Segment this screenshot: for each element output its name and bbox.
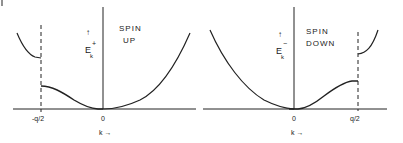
- right-y-label-sup: −: [283, 40, 287, 47]
- right-title-spin: SPIN: [306, 27, 329, 36]
- left-title-up: UP: [123, 36, 136, 45]
- left-y-label-sub: k: [90, 53, 94, 59]
- right-parabola-curve: [210, 30, 294, 109]
- dispersion-diagram: SPIN UP ↑ E + k -q/2 0 k → SPIN DOWN ↑ E…: [0, 0, 403, 143]
- left-x-label-k-arrow: k →: [99, 129, 111, 136]
- right-title-down: DOWN: [306, 39, 335, 48]
- left-panel-spin-up: SPIN UP ↑ E + k -q/2 0 k →: [13, 7, 196, 136]
- right-upper-band-curve: [358, 30, 378, 54]
- left-tick-origin: 0: [101, 115, 105, 122]
- left-y-arrow-icon: ↑: [86, 28, 90, 37]
- right-lower-band-curve: [289, 81, 358, 109]
- left-lower-band-curve: [41, 86, 103, 109]
- right-x-label-k-arrow: k →: [291, 129, 303, 136]
- left-parabola-curve: [103, 33, 190, 109]
- left-upper-band-curve: [17, 33, 41, 58]
- right-tick-q-half: q/2: [350, 115, 360, 123]
- right-panel-spin-down: SPIN DOWN ↑ E − k 0 q/2 k →: [203, 7, 387, 136]
- right-y-label-sub: k: [281, 54, 285, 60]
- left-title-spin: SPIN: [119, 24, 142, 33]
- right-tick-origin: 0: [292, 115, 296, 122]
- right-y-arrow-icon: ↑: [278, 30, 282, 39]
- left-tick-minus-q-half: -q/2: [32, 115, 44, 123]
- left-y-label-sup: +: [92, 40, 96, 47]
